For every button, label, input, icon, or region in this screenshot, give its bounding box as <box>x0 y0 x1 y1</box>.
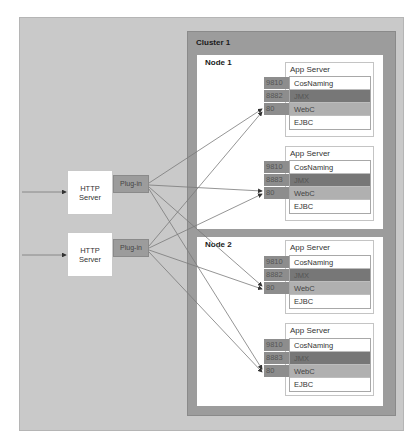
connector-arrows <box>0 0 417 445</box>
